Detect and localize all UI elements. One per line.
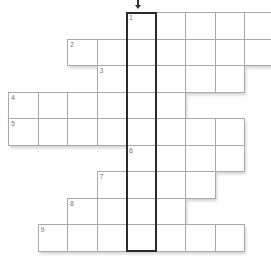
grid-cell[interactable]: 5	[8, 118, 39, 146]
grid-cell[interactable]	[215, 224, 246, 252]
grid-cell[interactable]: 7	[97, 171, 128, 199]
grid-cell[interactable]	[97, 198, 128, 226]
clue-number: 7	[100, 173, 104, 181]
grid-cell[interactable]	[97, 224, 128, 252]
grid-cell[interactable]	[215, 39, 246, 67]
grid-cell[interactable]	[156, 224, 187, 252]
grid-cell[interactable]: 4	[8, 92, 39, 120]
grid-cell[interactable]	[97, 39, 128, 67]
grid-cell[interactable]	[185, 145, 216, 173]
grid-cell[interactable]	[126, 92, 157, 120]
grid-cell[interactable]	[38, 118, 69, 146]
clue-number: 8	[70, 200, 74, 208]
grid-cell[interactable]	[185, 12, 216, 40]
grid-cell[interactable]	[156, 145, 187, 173]
grid-cell[interactable]	[38, 92, 69, 120]
clue-number: 1	[129, 14, 133, 22]
arrow-head	[135, 5, 141, 9]
grid-cell[interactable]	[185, 224, 216, 252]
grid-cell[interactable]: 2	[67, 39, 98, 67]
grid-cell[interactable]	[215, 145, 246, 173]
grid-cell[interactable]	[215, 12, 246, 40]
grid-cell[interactable]	[156, 198, 187, 226]
grid-cell[interactable]	[67, 92, 98, 120]
grid-cell[interactable]	[244, 39, 271, 67]
grid-cell[interactable]: 8	[67, 198, 98, 226]
grid-cell[interactable]	[156, 92, 187, 120]
grid-cell[interactable]	[156, 39, 187, 67]
grid-cell[interactable]	[126, 65, 157, 93]
grid-cell[interactable]	[67, 118, 98, 146]
grid-cell[interactable]: 3	[97, 65, 128, 93]
grid-cell[interactable]: 9	[38, 224, 69, 252]
grid-cell[interactable]	[67, 224, 98, 252]
grid-cell[interactable]: 6	[126, 145, 157, 173]
clue-number: 4	[11, 94, 15, 102]
clue-number: 9	[41, 226, 45, 234]
grid-cell[interactable]	[126, 171, 157, 199]
clue-number: 2	[70, 41, 74, 49]
grid-cell[interactable]	[215, 118, 246, 146]
grid-cell[interactable]: 1	[126, 12, 157, 40]
grid-cell[interactable]	[97, 92, 128, 120]
grid-cell[interactable]	[97, 118, 128, 146]
grid-cell[interactable]	[126, 39, 157, 67]
grid-cell[interactable]	[244, 12, 271, 40]
clue-number: 3	[100, 67, 104, 75]
grid-cell[interactable]	[156, 65, 187, 93]
grid-cell[interactable]	[126, 118, 157, 146]
grid-cell[interactable]	[215, 65, 246, 93]
grid-cell[interactable]	[126, 198, 157, 226]
grid-cell[interactable]	[156, 12, 187, 40]
grid-cell[interactable]	[185, 118, 216, 146]
clue-number: 6	[129, 147, 133, 155]
clue-number: 5	[11, 120, 15, 128]
grid-cell[interactable]	[185, 65, 216, 93]
grid-cell[interactable]	[126, 224, 157, 252]
crossword-grid: 123456789	[0, 0, 271, 256]
grid-cell[interactable]	[185, 39, 216, 67]
grid-cell[interactable]	[156, 171, 187, 199]
grid-cell[interactable]	[185, 171, 216, 199]
grid-cell[interactable]	[156, 118, 187, 146]
